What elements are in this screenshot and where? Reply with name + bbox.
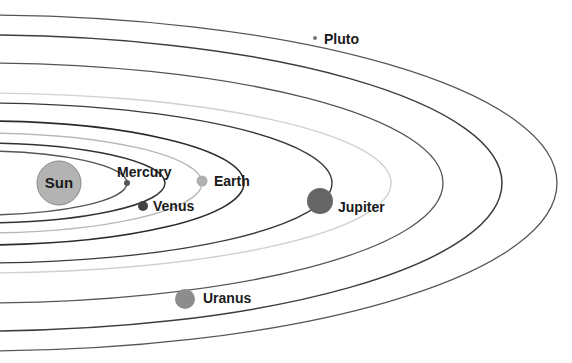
planet-mercury: Mercury xyxy=(117,164,172,186)
mercury-icon xyxy=(124,180,130,186)
earth-label: Earth xyxy=(214,173,250,189)
venus-label: Venus xyxy=(153,198,194,214)
uranus-icon xyxy=(175,289,195,309)
pluto-label: Pluto xyxy=(324,31,359,47)
planet-pluto: Pluto xyxy=(313,31,359,47)
jupiter-label: Jupiter xyxy=(338,199,385,215)
planet-jupiter: Jupiter xyxy=(307,188,385,215)
sun: Sun xyxy=(37,161,81,205)
jupiter-icon xyxy=(307,188,333,214)
orbit-earth xyxy=(0,133,202,233)
venus-icon xyxy=(138,201,148,211)
solar-system-diagram: Sun MercuryVenusEarthJupiterUranusPluto xyxy=(0,0,572,363)
pluto-icon xyxy=(313,36,317,40)
uranus-label: Uranus xyxy=(203,290,251,306)
mercury-label: Mercury xyxy=(117,164,172,180)
planet-earth: Earth xyxy=(197,173,250,189)
orbit-group xyxy=(0,15,557,351)
earth-icon xyxy=(197,176,208,187)
planet-uranus: Uranus xyxy=(175,289,251,309)
sun-label: Sun xyxy=(45,174,73,191)
orbit-venus xyxy=(0,143,165,223)
